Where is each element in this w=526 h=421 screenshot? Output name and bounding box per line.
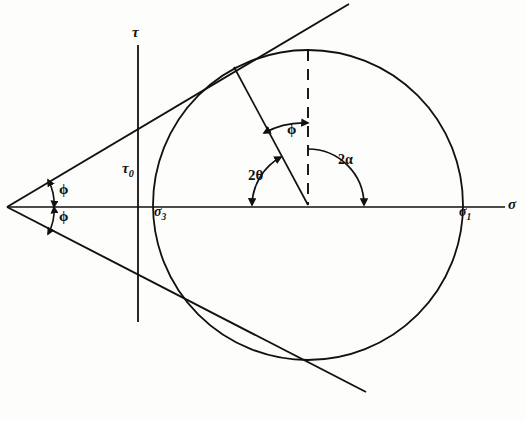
two-alpha-angle-label: 2α — [338, 153, 353, 167]
phi-inner-arc — [264, 123, 308, 133]
two-alpha-arc — [308, 149, 364, 205]
radius-to-tangent-point — [234, 67, 308, 205]
figure-canvas — [0, 0, 526, 421]
friction-angle-label-upper: ϕ — [59, 182, 68, 197]
two-theta-angle-label: 2θ — [248, 168, 263, 183]
normal-stress-axis-label: σ — [508, 197, 516, 212]
mohr-circle-figure: τ τ0 σ σ3 σ1 ϕ ϕ ϕ 2θ 2α — [0, 0, 526, 421]
sigma-3-label: σ3 — [154, 205, 166, 222]
cohesion-intercept-label: τ0 — [122, 161, 134, 179]
friction-angle-label-lower: ϕ — [59, 209, 68, 224]
failure-envelope-lower — [7, 207, 366, 392]
phi-arc-upper — [48, 180, 54, 207]
sigma-1-label: σ1 — [459, 205, 471, 222]
shear-stress-axis-label: τ — [132, 25, 139, 40]
friction-angle-label-inner: ϕ — [287, 122, 296, 137]
failure-envelope-upper — [7, 4, 349, 207]
